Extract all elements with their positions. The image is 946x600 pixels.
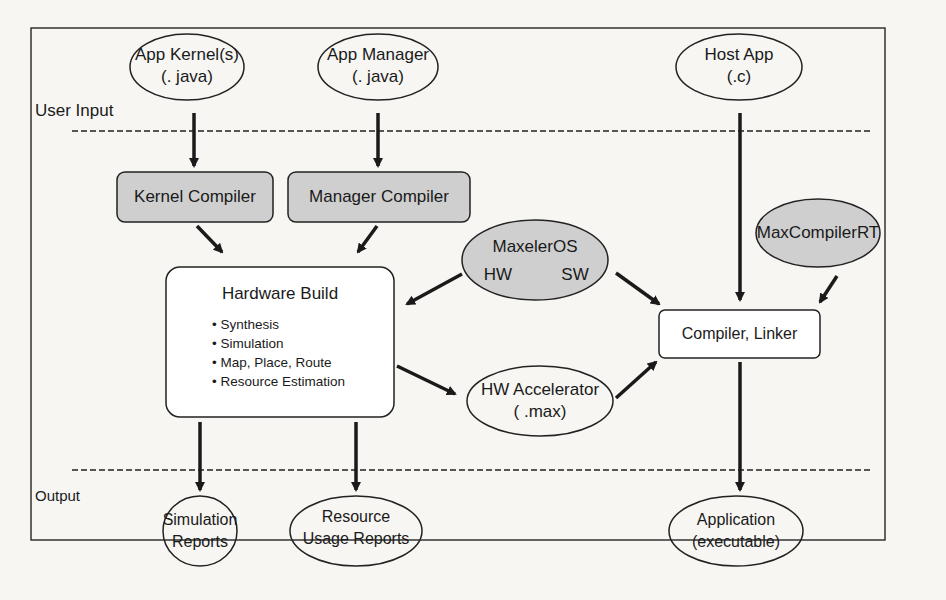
node-maxcompilerrt: MaxCompilerRT [756, 222, 880, 244]
node-compiler-linker: Compiler, Linker [659, 323, 820, 345]
node-hardware-build-title: Hardware Build [166, 283, 394, 305]
node-simulation-reports: SimulationReports [150, 509, 250, 553]
node-manager-compiler: Manager Compiler [288, 186, 470, 208]
node-hw-accelerator: HW Accelerator( .max) [467, 379, 613, 423]
zone-label-user-input: User Input [35, 101, 113, 121]
step-item: Synthesis [212, 315, 345, 334]
node-app-manager: App Manager(. java) [318, 44, 438, 88]
hardware-build-steps: Synthesis Simulation Map, Place, Route R… [212, 315, 345, 391]
node-resource-usage-reports: ResourceUsage Reports [290, 506, 422, 550]
maxeleros-sw-label: SW [555, 264, 595, 286]
step-item: Resource Estimation [212, 372, 345, 391]
diagram-frame [31, 28, 885, 540]
node-application: Application(executable) [670, 509, 802, 553]
maxeleros-hw-label: HW [478, 264, 518, 286]
step-item: Map, Place, Route [212, 353, 345, 372]
diagram-canvas [0, 0, 946, 600]
zone-label-output: Output [35, 487, 80, 504]
node-host-app: Host App(.c) [676, 44, 802, 88]
node-app-kernel: App Kernel(s)(. java) [130, 44, 244, 88]
node-maxeleros: MaxelerOS [462, 236, 608, 258]
node-kernel-compiler: Kernel Compiler [117, 186, 273, 208]
step-item: Simulation [212, 334, 345, 353]
